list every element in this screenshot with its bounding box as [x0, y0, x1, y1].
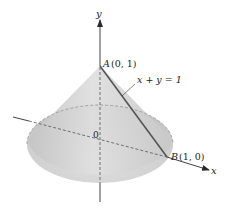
point-a-coords: (0, 1): [111, 58, 137, 69]
point-b-coords: (1, 0): [179, 151, 205, 162]
equation-leader-line: [122, 84, 135, 96]
cone-diagram: y x 0 A (0, 1) B (1, 0) x + y = 1: [0, 0, 226, 218]
point-a-name: A: [102, 58, 110, 69]
x-axis-label: x: [211, 165, 217, 176]
x-axis-back: [13, 117, 29, 121]
y-axis-label: y: [95, 8, 102, 19]
point-b-name: B: [170, 151, 178, 162]
origin-label: 0: [93, 130, 99, 140]
equation-label: x + y = 1: [137, 74, 182, 85]
